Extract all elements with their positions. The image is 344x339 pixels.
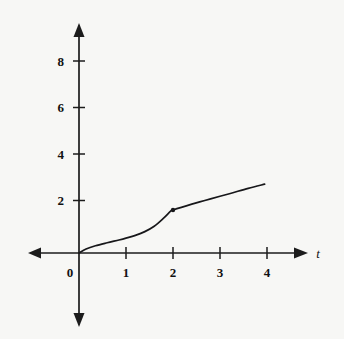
- y-tick-label-2: 2: [58, 193, 65, 208]
- x-axis-label: t: [316, 246, 320, 261]
- x-axis-right-arrow-icon: [294, 248, 308, 259]
- x-tick-label-1: 1: [123, 265, 130, 280]
- x-axis: [28, 248, 308, 259]
- y-tick-label-6: 6: [58, 100, 65, 115]
- x-axis-left-arrow-icon: [28, 248, 41, 259]
- coordinate-plot: 1 2 3 4 2 4 6 8 0 t: [0, 0, 344, 339]
- data-curve: [79, 184, 265, 253]
- origin-label: 0: [67, 265, 74, 280]
- y-tick-label-8: 8: [58, 54, 65, 69]
- x-tick-label-2: 2: [170, 265, 177, 280]
- x-tick-label-4: 4: [264, 265, 271, 280]
- y-axis-up-arrow-icon: [74, 23, 85, 37]
- y-axis-down-arrow-icon: [74, 313, 85, 327]
- y-tick-label-4: 4: [58, 147, 65, 162]
- corner-point-dot: [171, 208, 175, 212]
- graph-figure: 1 2 3 4 2 4 6 8 0 t: [0, 0, 344, 339]
- y-axis: [74, 23, 85, 327]
- x-tick-label-3: 3: [217, 265, 224, 280]
